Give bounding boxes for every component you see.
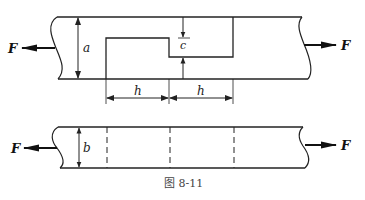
dimension-a-label: a (83, 41, 90, 55)
bottom-plate-view: b F F (10, 127, 351, 168)
dimension-h2-label: h (197, 84, 205, 98)
force-left-label: F (7, 41, 18, 56)
dimension-b-label: b (83, 141, 91, 155)
top-plate-view: a c h h F F (7, 17, 351, 104)
figure-caption: 图 8-11 (164, 177, 203, 190)
dimension-h1-label: h (134, 84, 142, 98)
joint-diagram: a c h h F F b (0, 0, 365, 200)
top-plate-right-break (299, 17, 311, 79)
force-right-label-bottom: F (340, 138, 351, 153)
joint-outline-left (106, 17, 233, 79)
force-right-label: F (340, 38, 351, 53)
bottom-plate-right-break (299, 127, 308, 168)
dimension-c-label: c (180, 39, 186, 52)
force-left-label-bottom: F (10, 141, 21, 156)
